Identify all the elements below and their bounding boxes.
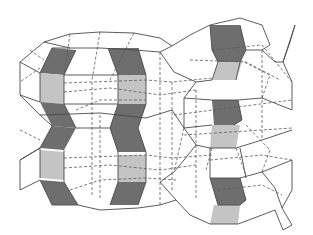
framework-diagram [0, 0, 313, 235]
light-face [210, 125, 240, 148]
light-face [40, 150, 64, 180]
dark-face [108, 48, 146, 75]
dark-face [110, 182, 146, 205]
light-face [118, 155, 146, 182]
light-face [40, 73, 64, 104]
dark-face [210, 178, 246, 205]
light-face [210, 205, 240, 224]
dark-face [110, 128, 146, 152]
dark-face [212, 100, 242, 125]
light-face [212, 62, 242, 80]
framework-svg [0, 0, 313, 235]
